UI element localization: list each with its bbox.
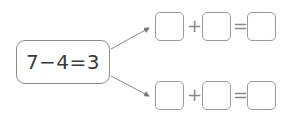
equation-box: 7−4=3 bbox=[16, 40, 110, 84]
bottom-blank-2[interactable] bbox=[202, 81, 231, 110]
bottom-equals: = bbox=[233, 86, 248, 104]
top-blank-2[interactable] bbox=[202, 12, 231, 41]
equation-text: 7−4=3 bbox=[26, 50, 100, 74]
bottom-blank-1[interactable] bbox=[155, 81, 184, 110]
arrow-down bbox=[111, 76, 149, 96]
top-plus: + bbox=[187, 17, 202, 35]
bottom-blank-3[interactable] bbox=[247, 81, 276, 110]
arrow-up bbox=[111, 28, 149, 49]
bottom-plus: + bbox=[187, 86, 202, 104]
top-blank-1[interactable] bbox=[155, 12, 184, 41]
top-equals: = bbox=[233, 17, 248, 35]
top-blank-3[interactable] bbox=[247, 12, 276, 41]
